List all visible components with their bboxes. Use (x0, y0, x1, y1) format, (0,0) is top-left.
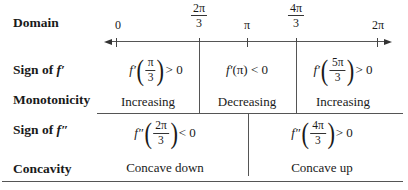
left-paren: ( (144, 118, 152, 148)
left-paren: ( (301, 118, 309, 148)
argument: (π) (232, 62, 247, 78)
row-label-sign-f-prime: Sign of f′ (13, 62, 65, 78)
function-symbol: f′ (313, 62, 319, 78)
tick-label-2pi: 2π (372, 18, 384, 33)
divider-bottom (2, 181, 403, 182)
divider-pi (248, 113, 249, 176)
label-prefix: Sign of (13, 62, 57, 77)
numerator: 5π (330, 57, 346, 71)
row-label-monotonicity: Monotonicity (13, 92, 90, 108)
divider-2pi-3 (199, 42, 200, 113)
concavity-interval-2: Concave up (291, 160, 353, 176)
relation: > 0 (336, 125, 353, 141)
relation: > 0 (166, 62, 183, 78)
tick-2pi (377, 38, 378, 47)
tick-label-0: 0 (115, 18, 121, 33)
right-paren: ) (327, 118, 335, 148)
relation: < 0 (179, 125, 196, 141)
sign-f-prime-interval-3: f′ ( 5π3 ) > 0 (313, 55, 372, 85)
numerator: 2π (153, 120, 169, 134)
numerator: π (146, 57, 156, 71)
monotonicity-interval-3: Increasing (316, 94, 370, 110)
monotonicity-interval-1: Increasing (121, 94, 175, 110)
sign-f-double-prime-interval-2: f″ ( 4π3 ) > 0 (291, 118, 353, 148)
denominator: 3 (148, 71, 154, 84)
relation: > 0 (355, 62, 372, 78)
function-symbol: f′ (57, 62, 65, 77)
denominator: 3 (158, 134, 164, 147)
denominator: 3 (293, 16, 299, 29)
denominator: 3 (196, 16, 202, 29)
divider-4pi-3 (296, 42, 297, 113)
sign-f-prime-interval-1: f′ ( π3 ) > 0 (129, 55, 182, 85)
arrow-right-icon (384, 39, 392, 45)
row-label-domain: Domain (13, 15, 59, 31)
numerator: 2π (191, 2, 207, 16)
function-symbol: f″ (134, 125, 143, 141)
tick-label-2pi-3: 2π3 (191, 2, 207, 29)
function-symbol: f′ (129, 62, 135, 78)
function-symbol: f″ (57, 122, 69, 137)
sign-f-double-prime-interval-1: f″ ( 2π3 ) < 0 (134, 118, 196, 148)
left-paren: ( (321, 55, 329, 85)
tick-pi (247, 38, 248, 47)
concavity-interval-1: Concave down (126, 160, 204, 176)
relation: < 0 (251, 62, 268, 78)
row-label-concavity: Concavity (13, 161, 72, 177)
function-symbol: f″ (291, 125, 300, 141)
right-paren: ) (347, 55, 355, 85)
tick-0 (116, 38, 117, 47)
denominator: 3 (315, 134, 321, 147)
row-label-sign-f-double-prime: Sign of f″ (13, 122, 68, 138)
denominator: 3 (335, 71, 341, 84)
left-paren: ( (137, 55, 145, 85)
number-line-axis (108, 41, 388, 42)
tick-label-4pi-3: 4π3 (288, 2, 304, 29)
sign-f-prime-interval-2: f′ (π) < 0 (226, 62, 268, 78)
label-prefix: Sign of (13, 122, 57, 137)
arrow-left-icon (104, 39, 112, 45)
right-paren: ) (170, 118, 178, 148)
divider-horizontal-mid (97, 113, 403, 114)
monotonicity-interval-2: Decreasing (218, 94, 276, 110)
numerator: 4π (288, 2, 304, 16)
tick-label-pi: π (244, 18, 250, 33)
numerator: 4π (310, 120, 326, 134)
right-paren: ) (157, 55, 165, 85)
